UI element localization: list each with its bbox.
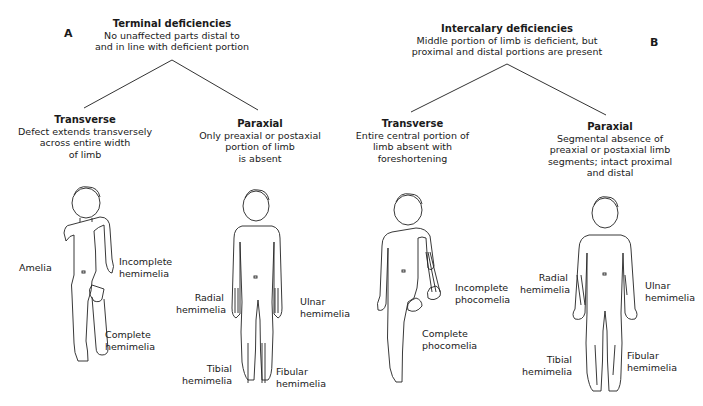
node-title: Paraxial <box>180 118 340 130</box>
node-desc-line: Middle portion of limb is deficient, but <box>402 35 612 47</box>
child-figure-paraxial-terminal-icon <box>222 188 292 388</box>
label-line: hemimelia <box>119 268 172 280</box>
label-tibial-hemimelia-b: Tibial hemimelia <box>520 354 572 377</box>
intercalary-transverse-node: Transverse Entire central portion of lim… <box>350 118 475 164</box>
label-line: hemimelia <box>176 304 224 316</box>
node-title: Paraxial <box>540 121 680 133</box>
node-desc-line: proximal and distal portions are present <box>402 46 612 58</box>
label-line: Tibial <box>520 354 572 366</box>
node-desc-line: Defect extends transversely <box>5 126 165 138</box>
node-desc-line: preaxial or postaxial limb <box>540 144 680 156</box>
node-desc-line: and in line with deficient portion <box>72 41 272 53</box>
label-radial-hemimelia-a: Radial hemimelia <box>176 292 224 315</box>
intercalary-paraxial-node: Paraxial Segmental absence of preaxial o… <box>540 121 680 179</box>
node-title: Transverse <box>350 118 475 130</box>
child-figure-amelia-hemimelia-icon <box>52 185 122 385</box>
label-line: Tibial <box>180 363 232 375</box>
label-line: phocomelia <box>422 340 477 352</box>
label-incomplete-hemimelia: Incomplete hemimelia <box>119 256 172 279</box>
node-desc-line: of limb <box>5 149 165 161</box>
label-incomplete-phocomelia: Incomplete phocomelia <box>455 282 510 305</box>
label-line: Complete <box>422 328 477 340</box>
node-title: Terminal deficiencies <box>72 18 272 30</box>
intercalary-deficiencies-node: Intercalary deficiencies Middle portion … <box>402 23 612 58</box>
label-line: Incomplete <box>119 256 172 268</box>
label-line: hemimelia <box>627 362 677 374</box>
label-line: Incomplete <box>455 282 510 294</box>
label-line: phocomelia <box>455 294 510 306</box>
label-complete-hemimelia: Complete hemimelia <box>105 329 155 352</box>
label-line: hemimelia <box>300 308 350 320</box>
panel-letter-b: B <box>650 36 658 49</box>
label-fibular-hemimelia-b: Fibular hemimelia <box>627 350 677 373</box>
label-line: Fibular <box>276 366 326 378</box>
label-fibular-hemimelia-a: Fibular hemimelia <box>276 366 326 389</box>
label-line: Ulnar <box>645 280 695 292</box>
label-line: Complete <box>105 329 155 341</box>
node-desc-line: Entire central portion of <box>350 130 475 142</box>
label-line: hemimelia <box>105 341 155 353</box>
node-title: Intercalary deficiencies <box>402 23 612 35</box>
terminal-paraxial-node: Paraxial Only preaxial or postaxial port… <box>180 118 340 164</box>
label-line: hemimelia <box>520 284 568 296</box>
label-line: hemimelia <box>520 366 572 378</box>
node-desc-line: segments; intact proximal <box>540 156 680 168</box>
node-desc-line: limb absent with <box>350 141 475 153</box>
node-desc-line: is absent <box>180 153 340 165</box>
node-desc-line: foreshortening <box>350 153 475 165</box>
label-tibial-hemimelia-a: Tibial hemimelia <box>180 363 232 386</box>
node-desc-line: portion of limb <box>180 141 340 153</box>
label-amelia: Amelia <box>19 262 52 274</box>
label-line: Fibular <box>627 350 677 362</box>
label-complete-phocomelia: Complete phocomelia <box>422 328 477 351</box>
node-desc-line: No unaffected parts distal to <box>72 30 272 42</box>
child-figure-phocomelia-icon <box>370 192 450 392</box>
label-line: Ulnar <box>300 296 350 308</box>
node-desc-line: Only preaxial or postaxial <box>180 130 340 142</box>
label-line: hemimelia <box>180 375 232 387</box>
label-line: Radial <box>520 272 568 284</box>
terminal-deficiencies-node: Terminal deficiencies No unaffected part… <box>72 18 272 53</box>
node-desc-line: Segmental absence of <box>540 133 680 145</box>
label-line: hemimelia <box>645 292 695 304</box>
node-desc-line: and distal <box>540 167 680 179</box>
label-ulnar-hemimelia-a: Ulnar hemimelia <box>300 296 350 319</box>
label-line: hemimelia <box>276 378 326 390</box>
label-ulnar-hemimelia-b: Ulnar hemimelia <box>645 280 695 303</box>
label-line: Radial <box>176 292 224 304</box>
node-desc-line: across entire width <box>5 137 165 149</box>
label-radial-hemimelia-b: Radial hemimelia <box>520 272 568 295</box>
terminal-transverse-node: Transverse Defect extends transversely a… <box>5 114 165 160</box>
node-title: Transverse <box>5 114 165 126</box>
